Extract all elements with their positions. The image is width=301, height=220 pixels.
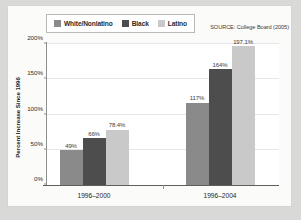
y-tick-mark (44, 113, 47, 114)
y-axis-title: Percent Increase Since 1996 (13, 62, 22, 172)
bar-slot: 117% (186, 44, 209, 185)
y-tick-label: 0% (34, 175, 43, 182)
legend-swatch-icon (158, 20, 165, 27)
legend-label: Latino (168, 20, 187, 27)
x-axis-category-label: 1996–2000 (77, 192, 110, 199)
chart-figure: White/Nonlatino Black Latino SOURCE: Col… (0, 0, 301, 220)
chart-legend: White/Nonlatino Black Latino (46, 14, 195, 33)
bar-slot: 164% (209, 44, 232, 185)
bar-value-label: 164% (213, 62, 228, 68)
y-tick-mark (44, 148, 47, 149)
bar-slot: 49% (60, 44, 83, 185)
y-tick-mark (44, 43, 47, 44)
plot-inner: 200% 150% 100% 50% 0% 49% 66% (47, 44, 279, 185)
y-tick-label: 50% (31, 139, 43, 146)
bar-black-1996-2000[interactable] (83, 138, 106, 185)
bar-slot: 78.4% (106, 44, 129, 185)
bar-slot: 66% (83, 44, 106, 185)
bar-value-label: 197.1% (233, 39, 253, 45)
bar-white-nonlatino-1996-2004[interactable] (186, 103, 209, 185)
legend-item-white-nonlatino[interactable]: White/Nonlatino (54, 20, 113, 27)
axis-group-separator (163, 185, 164, 189)
y-tick-label: 200% (27, 34, 43, 41)
bar-value-label: 66% (88, 131, 100, 137)
bar-group-1996-2004: 117% 164% 197.1% 1996–2004 (179, 44, 261, 185)
bar-slot: 197.1% (232, 44, 255, 185)
plot-area: 200% 150% 100% 50% 0% 49% 66% (47, 44, 279, 185)
y-axis-title-text: Percent Increase Since 1996 (14, 77, 21, 158)
bar-latino-1996-2000[interactable] (106, 130, 129, 185)
legend-swatch-icon (54, 20, 61, 27)
source-note: SOURCE: College Board (2005) (210, 24, 289, 30)
legend-label: Black (132, 20, 149, 27)
bar-latino-1996-2004[interactable] (232, 46, 255, 185)
y-tick-mark (44, 184, 47, 185)
bar-value-label: 49% (65, 143, 77, 149)
x-axis-category-label: 1996–2004 (203, 192, 236, 199)
bar-value-label: 78.4% (109, 122, 126, 128)
bar-group-1996-2000: 49% 66% 78.4% 1996–2000 (53, 44, 135, 185)
bar-white-nonlatino-1996-2000[interactable] (60, 150, 83, 185)
y-tick-mark (44, 78, 47, 79)
legend-item-black[interactable]: Black (122, 20, 149, 27)
legend-label: White/Nonlatino (64, 20, 113, 27)
bar-value-label: 117% (190, 95, 205, 101)
bar-black-1996-2004[interactable] (209, 69, 232, 185)
legend-item-latino[interactable]: Latino (158, 20, 187, 27)
legend-swatch-icon (122, 20, 129, 27)
y-tick-label: 100% (27, 104, 43, 111)
y-tick-label: 150% (27, 69, 43, 76)
